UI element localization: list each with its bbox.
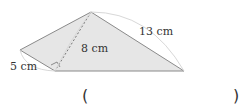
label-13cm: 13 cm bbox=[139, 25, 174, 38]
answer-blank[interactable] bbox=[95, 88, 230, 106]
answer-open-paren: ( bbox=[82, 86, 88, 105]
label-5cm: 5 cm bbox=[10, 60, 38, 73]
answer-close-paren: ) bbox=[233, 86, 239, 105]
label-8cm: 8 cm bbox=[81, 42, 109, 55]
